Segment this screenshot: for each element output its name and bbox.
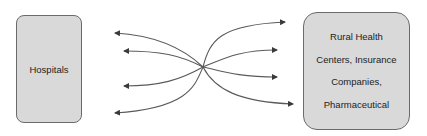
- arrow-to-hospitals-1: [115, 33, 203, 67]
- rural-health-insurance-pharma-node: Rural Health Centers, Insurance Companie…: [303, 12, 410, 130]
- arrow-to-rural-health-2: [203, 50, 277, 67]
- right-node-line-2: Centers, Insurance: [316, 54, 396, 66]
- arrow-to-rural-health-3: [203, 67, 277, 77]
- arrow-to-rural-health-4: [203, 67, 293, 104]
- right-node-line-1: Rural Health: [330, 31, 383, 43]
- arrow-to-hospitals-3: [124, 67, 203, 86]
- arrow-to-rural-health-1: [203, 22, 285, 67]
- right-node-line-4: Pharmaceutical: [324, 99, 389, 111]
- arrow-to-hospitals-2: [124, 51, 203, 67]
- right-node-line-3: Companies,: [331, 76, 382, 88]
